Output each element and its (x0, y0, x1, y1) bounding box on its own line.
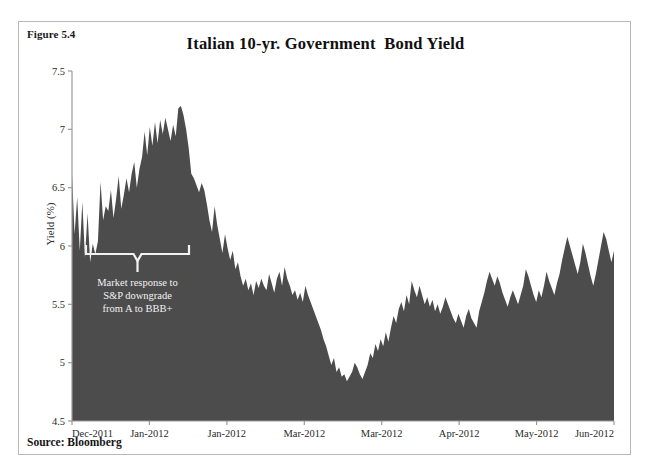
y-axis-tick-label: 5 (60, 357, 65, 368)
y-axis-tick-label: 7.5 (52, 66, 65, 77)
annotation-line: from A to BBB+ (103, 303, 173, 314)
x-axis-tick-label: Jan-2012 (130, 428, 169, 439)
y-axis-tick-label: 6.5 (52, 182, 65, 193)
x-axis-tick-label: Jan-2012 (208, 428, 247, 439)
y-axis-tick-label: 6 (60, 241, 65, 252)
y-axis-tick-label: 5.5 (52, 299, 65, 310)
x-axis-tick-label: Apr-2012 (439, 428, 480, 439)
figure-container: Figure 5.4 Italian 10-yr. Government Bon… (18, 21, 631, 455)
x-axis-tick-label: May-2012 (515, 428, 559, 439)
x-axis-tick-label: Mar-2012 (361, 428, 403, 439)
x-axis-tick-label: Dec-2011 (72, 428, 113, 439)
y-axis-tick-label: 4.5 (52, 416, 65, 427)
y-axis-tick-label: 7 (60, 124, 65, 135)
area-series (72, 106, 614, 421)
x-axis-tick-label: Jun-2012 (575, 428, 614, 439)
annotation-line: S&P downgrade (103, 290, 172, 301)
bond-yield-area-chart: 4.555.566.577.5Dec-2011Jan-2012Jan-2012M… (19, 22, 631, 455)
annotation-line: Market response to (97, 277, 177, 288)
x-axis-tick-label: Mar-2012 (283, 428, 325, 439)
